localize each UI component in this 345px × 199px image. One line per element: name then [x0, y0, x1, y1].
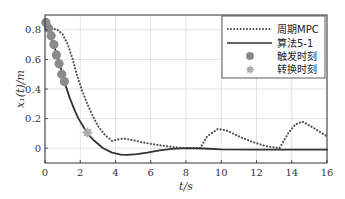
x-tick-label: 4	[112, 167, 118, 178]
y-tick-label: 0.2	[25, 113, 41, 124]
x-tick-label: 6	[148, 167, 154, 178]
y-tick-label: 0.4	[25, 84, 41, 95]
legend-star-marker-icon: ✸	[245, 63, 255, 77]
x-tick-label: 14	[285, 167, 298, 178]
x-tick-label: 12	[250, 167, 263, 178]
line-chart: ✸ 0246810121416 00.20.40.60.8 t/s x₁(t)/…	[0, 0, 345, 199]
legend-label-periodic-mpc: 周期MPC	[277, 24, 319, 35]
legend-label-trigger: 触发时刻	[277, 50, 317, 62]
y-tick-label: 0.6	[25, 54, 41, 65]
y-tick-label: 0.8	[25, 24, 41, 35]
legend-circle-marker-icon	[246, 52, 254, 60]
legend: 周期MPC 算法5-1 触发时刻 ✸ 转换时刻	[222, 16, 325, 78]
trigger-marker	[60, 77, 69, 86]
y-tick-label: 0	[35, 143, 41, 154]
x-tick-label: 8	[183, 167, 189, 178]
trigger-marker	[47, 31, 56, 40]
legend-label-switch: 转换时刻	[277, 63, 317, 75]
x-tick-label: 2	[77, 167, 83, 178]
x-axis-label: t/s	[179, 180, 193, 193]
switch-star-marker: ✸	[81, 124, 94, 142]
trigger-marker	[52, 50, 61, 59]
legend-label-algorithm: 算法5-1	[277, 37, 313, 49]
trigger-marker	[49, 40, 58, 49]
x-tick-label: 0	[42, 167, 48, 178]
y-axis-label: x₁(t)/m	[14, 70, 27, 108]
x-tick-label: 10	[215, 167, 228, 178]
x-tick-label: 16	[321, 167, 334, 178]
trigger-marker	[55, 59, 64, 68]
markers-layer: ✸	[41, 18, 93, 143]
